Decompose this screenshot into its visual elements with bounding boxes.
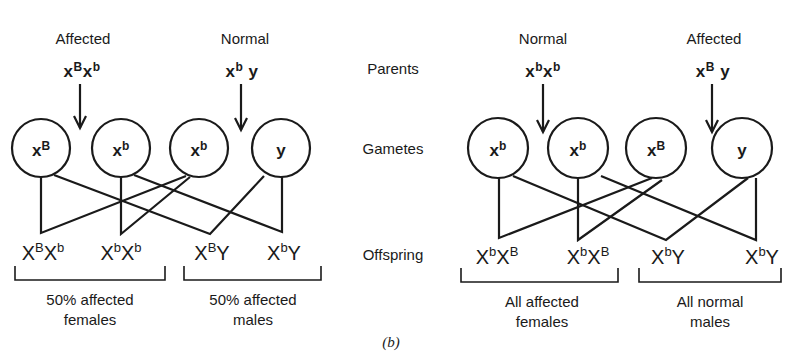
right-offspring-1: XbXB: [476, 244, 519, 269]
bracket-males-right: [639, 268, 781, 282]
left-gamete-3: xb: [191, 139, 208, 161]
right-father-genotype: xB y: [696, 60, 730, 82]
right-summary-females: All affectedfemales: [505, 292, 579, 332]
left-father-phenotype: Normal: [221, 30, 269, 47]
row-label-gametes: Gametes: [363, 140, 424, 157]
bracket-males-left: [184, 266, 321, 280]
left-offspring-4: XbY: [267, 240, 301, 265]
arrow-down-icon: [537, 84, 549, 132]
left-offspring-2: XbXb: [100, 240, 141, 265]
left-father-genotype: xb y: [225, 60, 258, 82]
left-offspring-3: XBY: [194, 240, 229, 265]
bracket-females-right: [461, 268, 618, 282]
left-gamete-2: xb: [113, 139, 130, 161]
left-mother-phenotype: Affected: [56, 30, 111, 47]
right-gamete-1: xb: [490, 139, 507, 161]
bracket-females-left: [15, 266, 165, 280]
right-summary-males: All normalmales: [677, 292, 744, 332]
figure-caption: (b): [382, 334, 400, 351]
right-father-phenotype: Affected: [687, 30, 742, 47]
left-gamete-1: xB: [32, 139, 50, 161]
left-mother-genotype: xBxb: [64, 60, 101, 82]
arrow-down-icon: [706, 84, 718, 132]
left-gamete-4: y: [276, 139, 285, 161]
right-gamete-4: y: [737, 139, 746, 161]
left-summary-females: 50% affectedfemales: [46, 290, 133, 330]
right-mother-phenotype: Normal: [519, 30, 567, 47]
right-gamete-3: xB: [647, 139, 665, 161]
row-label-offspring: Offspring: [363, 246, 424, 263]
right-gamete-2: xb: [570, 139, 587, 161]
right-mother-genotype: xbxb: [525, 60, 561, 82]
arrow-down-icon: [235, 84, 247, 130]
row-label-parents: Parents: [367, 60, 419, 77]
right-offspring-4: XbY: [745, 244, 779, 269]
left-summary-males: 50% affectedmales: [209, 290, 296, 330]
left-offspring-1: XBXb: [22, 240, 65, 265]
right-offspring-2: XbXB: [567, 244, 610, 269]
arrow-down-icon: [74, 84, 86, 128]
right-offspring-3: XbY: [651, 244, 685, 269]
